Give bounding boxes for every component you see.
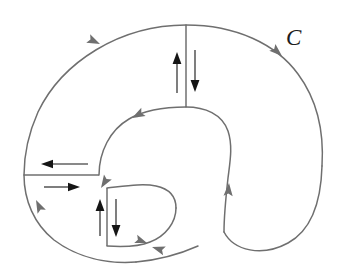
outer-right-lobe-arc [224,166,322,251]
outer-right-arc [186,25,322,166]
outer-lower-left-direction-arrow [32,198,46,214]
outer-bottom-tail-arc [136,246,198,262]
outer-bottom-direction-arrow [151,243,166,256]
cut-segments [24,25,186,246]
curve-orientation-arrows [32,34,285,255]
curve-label-c: C [286,25,302,50]
cut-arrow-down-lower [112,199,121,237]
inner-blob-upper-arc [107,185,176,208]
figure-container: C [0,0,351,272]
outer-top-left-arc [24,25,186,175]
cut-arrow-up-right-upper [173,52,182,93]
inner-right-arc [186,107,231,232]
inner-upper-left-direction-arrow [130,108,146,122]
cut-arrow-right-horizontal [44,183,80,191]
curve-diagram: C [0,0,351,272]
outer-top-left-direction-arrow [86,34,102,48]
cut-arrow-left-horizontal [41,160,88,168]
cut-arrow-up-lower [96,199,105,236]
outer-lower-left-arc [24,175,136,262]
inner-left-arc [99,107,186,175]
inner-right-descend-direction-arrow [224,183,234,197]
cut-arrow-down-right-upper [191,50,200,92]
